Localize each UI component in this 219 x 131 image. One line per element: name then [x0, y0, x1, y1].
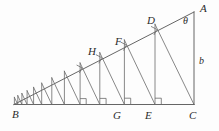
right-angle-mark-base-3 [100, 98, 106, 104]
geometry-figure: A θ b D F H B G E C [0, 0, 219, 131]
label-point-c: C [189, 110, 196, 121]
perp-11 [18, 96, 22, 105]
perp-e-to-f [124, 40, 155, 105]
perp-7 [42, 83, 52, 104]
label-point-g: G [113, 110, 121, 121]
right-angle-mark-base-g [124, 98, 130, 104]
outer-triangle [14, 12, 194, 105]
perp-8 [34, 87, 42, 104]
label-side-b: b [199, 56, 204, 66]
perp-c-to-d [155, 24, 194, 104]
hypotenuse-ba [14, 12, 194, 105]
label-angle-theta: θ [183, 16, 188, 26]
perp-5 [64, 71, 80, 104]
label-point-b: B [12, 109, 19, 120]
right-angle-marks-baseline [80, 98, 161, 104]
right-angle-mark-base-e [155, 98, 161, 104]
perp-g-to-h [100, 53, 125, 105]
perp-10 [22, 94, 27, 105]
label-point-h: H [88, 46, 96, 57]
label-point-f: F [115, 36, 122, 47]
label-point-e: E [145, 110, 152, 121]
label-point-a: A [200, 3, 207, 14]
label-point-d: D [147, 15, 155, 26]
right-angle-mark-base-4 [80, 99, 86, 105]
vertical-drop-segments [14, 24, 155, 104]
